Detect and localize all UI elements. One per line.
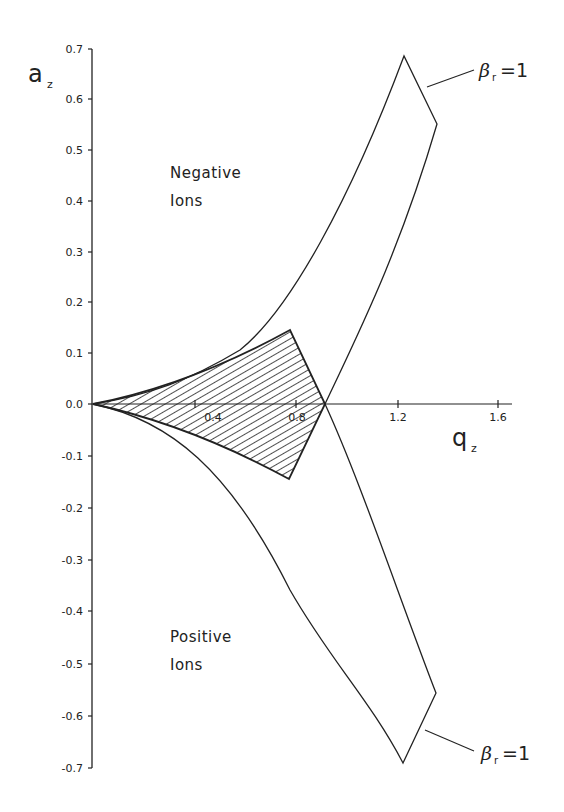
y-tick-label: -0.4 — [62, 605, 83, 618]
svg-text:Positive: Positive — [170, 628, 232, 646]
beta-top-annotation: β r =1 — [427, 59, 528, 87]
y-tick-label: -0.7 — [62, 762, 83, 775]
y-tick-label: -0.5 — [62, 658, 83, 671]
svg-text:Negative: Negative — [170, 164, 241, 182]
y-tick-label: 0.1 — [66, 347, 84, 360]
y-axis: 0.7 0.6 0.5 0.4 0.3 0.2 0.1 0.0 -0.1 -0.… — [28, 43, 92, 775]
svg-text:Ions: Ions — [170, 656, 203, 674]
svg-text:=1: =1 — [502, 742, 530, 764]
x-tick-label: 1.2 — [389, 411, 407, 424]
leader-line — [427, 70, 474, 87]
x-tick-label: 1.6 — [489, 411, 507, 424]
leader-line — [425, 730, 474, 751]
negative-ions-label: Negative Ions — [170, 164, 241, 210]
svg-text:β: β — [478, 59, 490, 81]
y-tick-label: 0.3 — [66, 246, 84, 259]
svg-text:r: r — [494, 755, 499, 766]
y-tick-label: 0.7 — [66, 43, 84, 56]
y-tick-label: -0.1 — [62, 450, 83, 463]
y-tick-label: -0.2 — [62, 502, 83, 515]
y-tick-label: 0.2 — [66, 296, 84, 309]
svg-text:Ions: Ions — [170, 192, 203, 210]
y-axis-title: a — [28, 60, 43, 88]
y-tick-label: -0.3 — [62, 554, 83, 567]
y-axis-subscript: z — [47, 78, 53, 91]
y-tick-label: -0.6 — [62, 710, 83, 723]
x-axis-title: q — [452, 424, 467, 452]
common-stability-region — [93, 330, 325, 479]
stability-diagram: 0.7 0.6 0.5 0.4 0.3 0.2 0.1 0.0 -0.1 -0.… — [0, 0, 564, 812]
y-tick-label: 0.4 — [66, 195, 84, 208]
y-tick-label: 0.0 — [66, 398, 84, 411]
svg-text:r: r — [492, 72, 497, 83]
svg-text:β: β — [480, 742, 492, 764]
x-axis-subscript: z — [471, 442, 477, 455]
positive-ions-label: Positive Ions — [170, 628, 232, 674]
y-tick-label: 0.6 — [66, 93, 84, 106]
svg-text:=1: =1 — [500, 59, 528, 81]
y-tick-label: 0.5 — [66, 144, 84, 157]
beta-bottom-annotation: β r =1 — [425, 730, 530, 766]
